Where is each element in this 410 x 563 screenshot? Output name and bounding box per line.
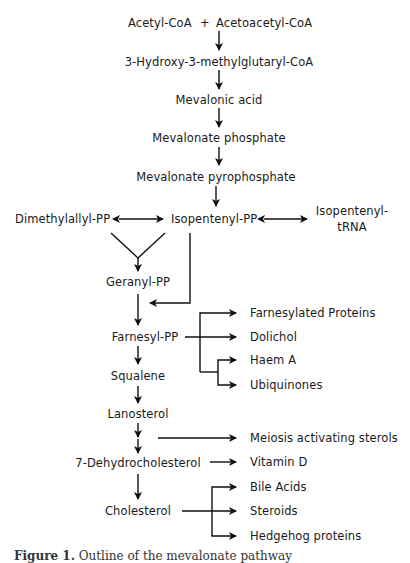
- node-cholesterol: Cholesterol: [105, 504, 171, 518]
- node-farnesyl-pp: Farnesyl-PP: [112, 330, 179, 344]
- product-farnesylated-proteins: Farnesylated Proteins: [250, 306, 375, 320]
- node-dimethylallyl-pp: Dimethylallyl-PP: [15, 212, 110, 226]
- node-isopentenyl-pp: Isopentenyl-PP: [171, 212, 257, 226]
- product-hedgehog-proteins: Hedgehog proteins: [250, 529, 361, 543]
- product-meiosis-activating-sterols: Meiosis activating sterols: [250, 431, 398, 445]
- node-mevalonate-phosphate: Mevalonate phosphate: [152, 131, 286, 145]
- caption-label: Figure 1.: [14, 549, 75, 563]
- product-vitamin-d: Vitamin D: [250, 455, 307, 469]
- product-dolichol: Dolichol: [250, 330, 297, 344]
- product-ubiquinones: Ubiquinones: [250, 378, 322, 392]
- arrow-to-hedgehog-proteins: [212, 535, 236, 536]
- node-acetoacetyl-coa: Acetoacetyl-CoA: [216, 16, 312, 30]
- figure-caption: Figure 1. Outline of the mevalonate path…: [14, 549, 292, 563]
- arrow-to-haem-a: [218, 360, 236, 372]
- node-hmg-coa: 3-Hydroxy-3-methylglutaryl-CoA: [125, 55, 314, 69]
- node-7-dehydrocholesterol: 7-Dehydrocholesterol: [75, 456, 201, 470]
- node-isopentenyl-trna-line1: Isopentenyl-: [316, 204, 388, 218]
- plus-sign: +: [200, 16, 210, 30]
- arrow-isopentenyl-to-farnesyl: [150, 233, 190, 303]
- node-acetyl-coa: Acetyl-CoA: [128, 16, 192, 30]
- arrow-to-ubiquinones: [218, 372, 236, 385]
- product-bile-acids: Bile Acids: [250, 480, 306, 494]
- caption-text: Outline of the mevalonate pathway: [79, 549, 292, 563]
- merge-v-to-geranyl: [111, 233, 165, 258]
- node-geranyl-pp: Geranyl-PP: [106, 275, 170, 289]
- node-isopentenyl-trna-line2: tRNA: [337, 220, 366, 234]
- node-squalene: Squalene: [111, 369, 165, 383]
- product-steroids: Steroids: [250, 504, 298, 518]
- product-haem-a: Haem A: [250, 353, 296, 367]
- node-mevalonate-pyrophosphate: Mevalonate pyrophosphate: [136, 170, 296, 184]
- node-mevalonic-acid: Mevalonic acid: [176, 93, 263, 107]
- node-lanosterol: Lanosterol: [107, 407, 168, 421]
